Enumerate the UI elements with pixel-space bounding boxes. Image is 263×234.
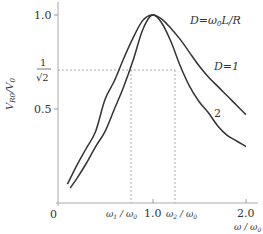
- x-tick-2: 2.0: [237, 207, 255, 220]
- y-axis-title: VR0/V0: [4, 77, 17, 110]
- reference-lines: [58, 70, 175, 203]
- curve-d1: [67, 15, 246, 184]
- y-tick-half: 0.5: [34, 103, 52, 116]
- x-axis-title: ω / ω0: [234, 222, 261, 233]
- curve-label-d2: 2: [214, 107, 221, 120]
- x-tick-omega2: ω2 / ω0: [166, 209, 197, 220]
- svg-text:√2: √2: [36, 72, 49, 83]
- formula-label: D=ω0L/R: [189, 14, 241, 28]
- y-tick-1: 1.0: [34, 9, 52, 22]
- curve-d2: [70, 15, 246, 188]
- curve-label-d1: D=1: [213, 60, 239, 73]
- curves: [67, 15, 246, 188]
- svg-text:1: 1: [40, 57, 46, 68]
- resonance-chart: 1.0 0.5 1 √2 VR0/V0 0 ω1 / ω0 1.0 ω2 / ω…: [0, 0, 263, 234]
- y-tick-inv-sqrt2: 1 √2: [36, 57, 51, 83]
- x-tick-0: 0: [50, 208, 57, 221]
- x-tick-omega1: ω1 / ω0: [106, 209, 137, 220]
- x-tick-1: 1.0: [144, 207, 162, 220]
